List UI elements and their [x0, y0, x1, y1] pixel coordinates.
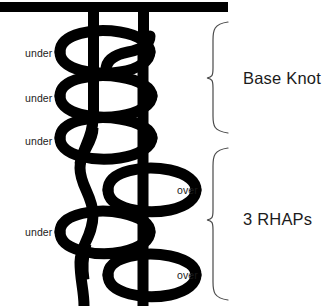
group-label-base-knot: Base Knot	[243, 70, 321, 87]
anchor-bar	[0, 2, 228, 12]
crossing-label-under-2: under	[25, 93, 52, 104]
hitch-1	[60, 31, 150, 73]
knot-diagram-figure: under under under over under over Base K…	[0, 0, 322, 306]
crossing-label-under-4: under	[25, 227, 52, 238]
bracket-three-rhaps	[207, 148, 228, 300]
knot-illustration	[0, 0, 322, 306]
rhap-2-loop-back	[60, 211, 150, 232]
rhap-2	[60, 211, 150, 253]
bracket-base-knot	[207, 22, 228, 133]
group-label-three-rhaps: 3 RHAPs	[243, 211, 312, 228]
crossing-label-under-1: under	[25, 48, 52, 59]
crossing-label-over-2: over	[177, 270, 198, 281]
crossing-label-under-3: under	[25, 136, 52, 147]
standing-strand-crossing-b	[83, 244, 86, 280]
crossing-label-over-1: over	[177, 185, 198, 196]
